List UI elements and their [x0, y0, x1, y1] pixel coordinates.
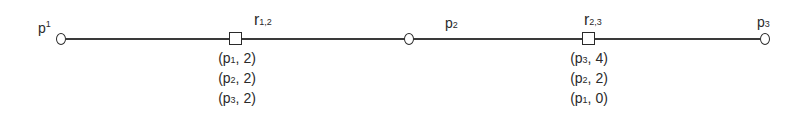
label-r23: r2,3	[584, 12, 602, 28]
tuple-item: (p2, 2)	[564, 69, 614, 89]
tuple-item: (p3, 4)	[564, 49, 614, 69]
node-p3-circle	[760, 33, 770, 45]
r12-tuple-list: (p1, 2) (p2, 2) (p3, 2)	[212, 49, 262, 109]
label-p2: p2	[445, 16, 458, 30]
tuple-item: (p1, 0)	[564, 89, 614, 109]
label-p1: p1	[38, 21, 51, 35]
node-p2-circle	[404, 33, 414, 45]
label-r12: r1,2	[254, 12, 272, 28]
tuple-item: (p3, 2)	[212, 89, 262, 109]
node-p1-circle	[56, 33, 66, 45]
label-p3: p3	[757, 15, 770, 29]
node-r23-square	[582, 32, 595, 45]
tuple-item: (p1, 2)	[212, 49, 262, 69]
tuple-item: (p2, 2)	[212, 69, 262, 89]
r23-tuple-list: (p3, 4) (p2, 2) (p1, 0)	[564, 49, 614, 109]
node-r12-square	[229, 32, 242, 45]
